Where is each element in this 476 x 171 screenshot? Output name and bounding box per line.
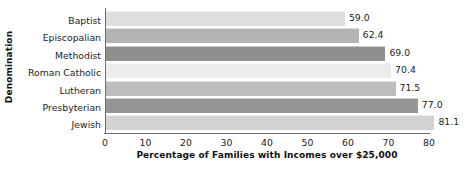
bar — [106, 63, 391, 78]
x-tick-label: 40 — [261, 136, 273, 150]
x-axis-tick-labels: 01020304050607080 — [105, 136, 429, 150]
bar-value-label: 70.4 — [395, 63, 416, 77]
category-label: Methodist — [55, 49, 101, 63]
bar — [106, 46, 385, 61]
category-label: Lutheran — [59, 84, 101, 98]
x-tick-label: 10 — [140, 136, 152, 150]
bar — [106, 98, 418, 113]
bar — [106, 11, 345, 26]
bar — [106, 28, 359, 43]
plot-area: 59.062.469.070.471.577.081.1 — [105, 8, 430, 133]
category-label: Baptist — [68, 14, 101, 28]
x-axis-line — [104, 133, 430, 134]
x-tick-label: 30 — [221, 136, 233, 150]
category-label: Roman Catholic — [28, 66, 101, 80]
x-tick-label: 50 — [302, 136, 314, 150]
bar-value-label: 71.5 — [400, 81, 421, 95]
bar-value-label: 69.0 — [389, 46, 410, 60]
category-label: Jewish — [72, 118, 101, 132]
bars-layer: 59.062.469.070.471.577.081.1 — [106, 8, 430, 133]
category-label: Episcopalian — [43, 31, 101, 45]
category-label: Presbyterian — [43, 101, 101, 115]
category-axis-labels: BaptistEpiscopalianMethodistRoman Cathol… — [18, 11, 103, 133]
x-tick-label: 70 — [383, 136, 395, 150]
bar-chart: Denomination BaptistEpiscopalianMethodis… — [0, 0, 476, 171]
x-tick-label: 60 — [342, 136, 354, 150]
y-axis-title-text: Denomination — [4, 30, 14, 102]
y-axis-title: Denomination — [0, 0, 18, 133]
x-axis-title: Percentage of Families with Incomes over… — [105, 150, 429, 160]
x-tick-label: 80 — [423, 136, 435, 150]
bar-value-label: 77.0 — [422, 98, 443, 112]
bar-value-label: 81.1 — [438, 115, 459, 129]
x-tick-label: 20 — [180, 136, 192, 150]
bar — [106, 81, 396, 96]
bar-value-label: 59.0 — [349, 11, 370, 25]
x-tick-label: 0 — [102, 136, 108, 150]
bar-value-label: 62.4 — [363, 28, 384, 42]
bar — [106, 115, 434, 130]
